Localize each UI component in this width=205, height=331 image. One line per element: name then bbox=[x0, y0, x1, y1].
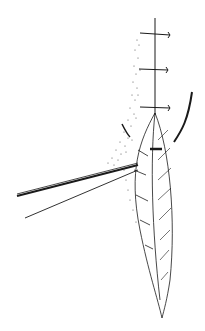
forceps bbox=[17, 163, 138, 218]
tissue-flap bbox=[134, 113, 172, 318]
hatched-muscle bbox=[158, 130, 171, 280]
surgical-illustration bbox=[0, 0, 205, 331]
curved-needle bbox=[174, 92, 192, 142]
needle-tip-left bbox=[122, 124, 130, 137]
